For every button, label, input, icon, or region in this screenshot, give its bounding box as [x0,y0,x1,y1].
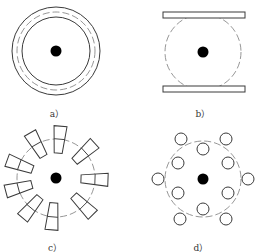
small-circle [222,157,234,169]
panel-d-ring-of-circles [152,133,254,225]
small-circle [175,133,187,145]
blade [81,172,108,186]
blade-trapezoid [4,178,33,198]
blade-trapezoid [69,191,97,219]
panel-d-label: d） [194,241,209,252]
blade [45,202,60,230]
small-circle [197,203,209,215]
small-circle [222,187,234,199]
figure-canvas [0,0,257,252]
blade [52,126,67,154]
center-dot [198,47,209,58]
small-circle [220,133,232,145]
blade [70,138,99,166]
panel-b-label: b） [196,107,211,120]
panel-b-circle-between-plates [163,12,245,92]
small-circle [172,157,184,169]
small-circle [197,143,209,155]
blade [24,130,49,160]
blade [5,154,35,175]
center-dot [51,46,62,57]
center-dot [51,173,62,184]
blade-trapezoid [70,138,99,166]
top-plate [163,12,245,18]
blade [69,191,97,219]
blade-trapezoid [45,202,60,230]
small-circle [152,173,164,185]
center-dot [198,174,209,185]
blade-trapezoid [52,126,67,154]
small-circle [220,213,232,225]
panel-c-radial-blades [4,126,108,231]
small-circle [174,213,186,225]
blade [4,178,33,198]
bottom-plate [163,86,245,92]
blade-trapezoid [5,154,35,175]
panel-c-label: c） [48,241,62,252]
panel-a-concentric-circles [12,7,100,95]
small-circle [242,173,254,185]
blade-trapezoid [24,130,49,160]
panel-a-label: a） [50,107,64,120]
small-circle [172,187,184,199]
